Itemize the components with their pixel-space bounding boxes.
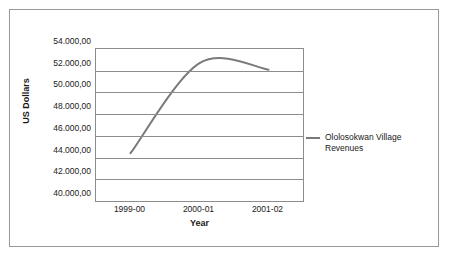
gridline — [96, 71, 303, 72]
gridline — [96, 179, 303, 180]
plot-area — [95, 48, 304, 202]
y-tick-label: 44.000,00 — [35, 145, 91, 155]
x-tick-label: 1999-00 — [95, 204, 164, 214]
legend-line-swatch — [306, 137, 320, 139]
legend: Ololosokwan Village Revenues — [306, 132, 438, 154]
chart-frame: US Dollars 54.000,0052.000,0050.000,0048… — [9, 9, 439, 247]
y-tick-label: 48.000,00 — [35, 101, 91, 111]
y-tick-label: 54.000,00 — [35, 36, 91, 46]
y-tick-label: 50.000,00 — [35, 79, 91, 89]
y-tick-label: 40.000,00 — [35, 188, 91, 198]
y-tick-label: 52.000,00 — [35, 58, 91, 68]
x-axis-title: Year — [95, 218, 304, 228]
y-tick-label: 42.000,00 — [35, 166, 91, 176]
legend-entry-label: Ololosokwan Village Revenues — [325, 132, 437, 154]
gridline — [96, 158, 303, 159]
gridline — [96, 136, 303, 137]
x-tick-label: 2000-01 — [164, 204, 233, 214]
gridline — [96, 114, 303, 115]
series-path-ololosokwan-village-revenues — [131, 58, 269, 153]
y-tick-label: 46.000,00 — [35, 123, 91, 133]
gridline — [96, 92, 303, 93]
x-axis-tick-labels: 1999-002000-012001-02 — [95, 204, 304, 217]
y-axis-title: US Dollars — [21, 61, 31, 141]
x-tick-label: 2001-02 — [233, 204, 302, 214]
y-axis-tick-labels: 54.000,0052.000,0050.000,0048.000,0046.0… — [35, 41, 91, 193]
